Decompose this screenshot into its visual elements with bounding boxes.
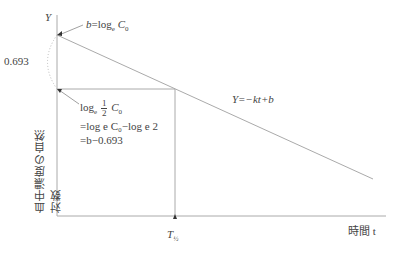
diagram: Y b=loge C0 0.693 loge 12 C0 =log e C₀−l…: [0, 0, 410, 255]
gap-value-label: 0.693: [4, 55, 29, 67]
half-formula-line1: loge 12 C0: [80, 99, 158, 119]
line-equation: Y=−kt+b: [232, 93, 274, 105]
y-axis-title: 血中濃度の自然対数: [32, 118, 64, 213]
half-level-formula: loge 12 C0 =log e C₀−log e 2 =b−0.693: [80, 99, 158, 147]
intercept-label: b=loge C0: [86, 18, 128, 33]
half-pointer: [59, 90, 79, 104]
y-axis-label: Y: [45, 11, 51, 23]
gap-arc: [48, 35, 58, 89]
half-formula-line3: =b−0.693: [80, 133, 158, 147]
half-arrowhead: [57, 89, 62, 93]
half-life-label: T½: [167, 228, 178, 243]
half-formula-line2: =log e C₀−log e 2: [80, 119, 158, 133]
x-axis-title: 時間 t: [348, 222, 376, 238]
fraction: 12: [101, 99, 108, 118]
intercept-pointer: [59, 25, 83, 35]
